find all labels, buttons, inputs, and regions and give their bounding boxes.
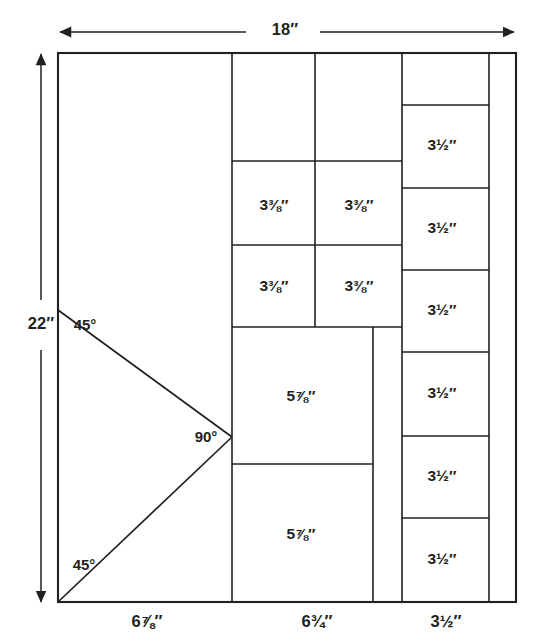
bottom-dim-right-label: 3½″ [431,612,462,630]
diagram-canvas: 18″ 22″ 45° 90° 45° [0,0,533,644]
angle-apex-label: 90° [195,428,218,445]
piece-col3-row3-label: 3½″ [428,301,458,318]
angle-bottom-left-label: 45° [73,556,96,573]
piece-col3-row2-label: 3½″ [428,219,458,236]
cutting-layout-diagram: 18″ 22″ 45° 90° 45° [0,0,533,644]
piece-col2-row2-right-label: 3⅜″ [345,196,375,213]
piece-col3-row5-label: 3½″ [428,467,458,484]
piece-col3-row6-label: 3½″ [428,550,458,567]
piece-col2-row4-label: 5⅞″ [287,387,317,404]
width-dimension: 18″ [60,20,514,38]
width-dimension-label: 18″ [272,20,298,38]
angle-top-left-label: 45° [74,316,97,333]
piece-col2-row3-right-label: 3⅜″ [345,277,375,294]
piece-col3-row4-label: 3½″ [428,384,458,401]
bottom-dim-middle-label: 6¾″ [302,612,333,630]
bottom-dim-left-label: 6⅞″ [132,612,163,630]
height-dimension-label: 22″ [28,314,54,332]
piece-col3-row1-label: 3½″ [428,136,458,153]
piece-col2-row5-label: 5⅞″ [287,525,317,542]
piece-col2-row2-left-label: 3⅜″ [260,196,290,213]
piece-col2-row3-left-label: 3⅜″ [260,277,290,294]
diagonal-lower [58,437,232,602]
height-dimension: 22″ [28,54,54,602]
